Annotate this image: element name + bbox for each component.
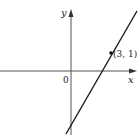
graph-canvas: y x 0 (3, 1)	[0, 0, 140, 138]
graph-svg: y x 0 (3, 1)	[0, 0, 140, 138]
point-label: (3, 1)	[113, 49, 137, 59]
y-axis-arrow-icon	[69, 9, 74, 17]
x-axis-label: x	[128, 74, 134, 85]
x-axis	[0, 69, 137, 74]
x-axis-arrow-icon	[129, 69, 137, 74]
y-axis-label: y	[60, 7, 67, 18]
y-axis	[69, 9, 74, 135]
origin-label: 0	[63, 75, 69, 85]
graph-line	[66, 11, 137, 134]
